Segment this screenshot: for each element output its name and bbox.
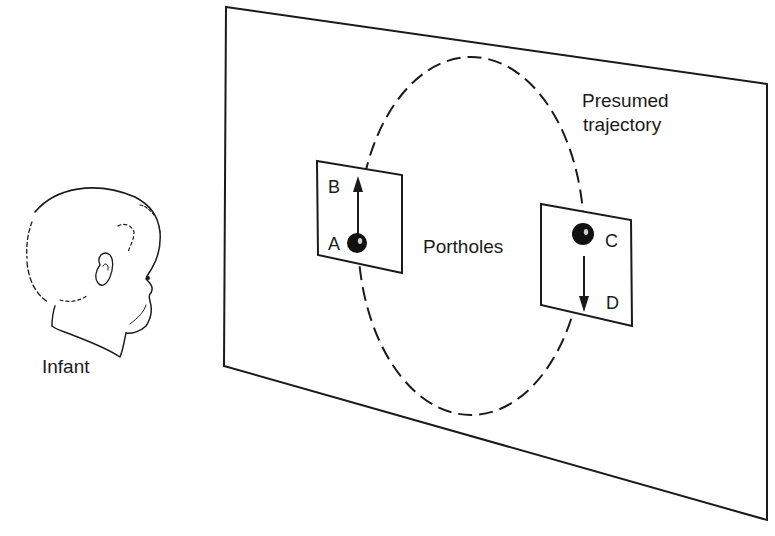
label-b: B bbox=[328, 177, 340, 197]
label-d: D bbox=[606, 293, 619, 313]
trajectory-label-line1: Presumed bbox=[582, 90, 669, 111]
label-a: A bbox=[328, 234, 340, 254]
trajectory-label-line2: trajectory bbox=[583, 114, 662, 135]
label-c: C bbox=[605, 231, 618, 251]
screen-panel bbox=[224, 7, 767, 520]
ball-icon bbox=[347, 233, 367, 253]
diagram-canvas: Infant B A C D Portholes Presumed trajec… bbox=[0, 0, 775, 536]
infant-label: Infant bbox=[42, 356, 90, 377]
infant-eye bbox=[146, 276, 150, 280]
ball-icon bbox=[572, 223, 594, 245]
portholes-label: Portholes bbox=[423, 236, 503, 257]
infant-head-illustration bbox=[27, 188, 160, 357]
